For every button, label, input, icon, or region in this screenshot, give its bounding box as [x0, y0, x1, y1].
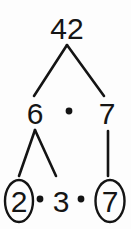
multiplication-dot-middle: [66, 108, 73, 115]
node-level1-6: 6: [27, 97, 44, 130]
edge-6-to-2: [19, 130, 35, 176]
multiplication-dot-right: [78, 196, 85, 203]
node-prime-7: 7: [102, 185, 119, 218]
multiplication-dot-left: [37, 196, 44, 203]
edge-42-to-6: [34, 45, 67, 96]
node-level1-7: 7: [99, 97, 116, 130]
factor-tree-diagram: 42 6 7 2 3 7: [0, 0, 131, 229]
factor-tree-canvas: 42 6 7 2 3 7: [0, 0, 131, 229]
node-prime-2: 2: [11, 185, 28, 218]
edge-42-to-7: [67, 45, 104, 96]
node-prime-3: 3: [53, 185, 70, 218]
node-root-42: 42: [50, 12, 83, 45]
edge-6-to-3: [35, 130, 56, 176]
